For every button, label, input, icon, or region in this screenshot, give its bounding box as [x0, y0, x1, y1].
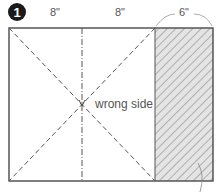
dimension-label-middle: 8" — [115, 6, 125, 18]
dimension-label-left: 8" — [50, 6, 60, 18]
step-number: 1 — [13, 5, 20, 20]
wrong-side-label: wrong side — [94, 97, 153, 111]
dimension-label-right: 6" — [179, 6, 189, 18]
step-badge: 1 — [8, 3, 26, 21]
hatched-panel — [155, 28, 213, 181]
fabric-folding-diagram: 1 8" 8" 6" wrong side — [0, 0, 218, 193]
